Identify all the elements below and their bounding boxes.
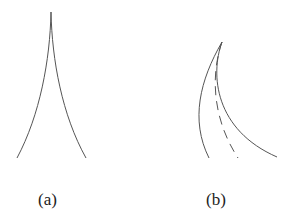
left-solid-curve bbox=[199, 42, 222, 158]
cusp-right-curve bbox=[51, 12, 86, 158]
panel-a-label: (a) bbox=[38, 190, 57, 210]
right-solid-curve bbox=[217, 42, 277, 157]
panel-b-curves bbox=[199, 42, 277, 158]
panel-a-cusp bbox=[17, 12, 86, 158]
middle-dashed-curve bbox=[215, 42, 238, 158]
cusp-left-curve bbox=[17, 12, 51, 158]
panel-b-label: (b) bbox=[206, 190, 226, 210]
